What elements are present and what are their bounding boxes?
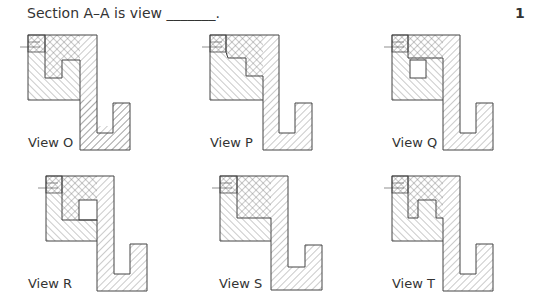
- view-label-o: View O: [28, 135, 73, 150]
- view-t[interactable]: View T: [392, 176, 502, 301]
- view-label-t: View T: [392, 276, 435, 291]
- view-label-q: View Q: [392, 135, 437, 150]
- view-p[interactable]: View P: [210, 35, 320, 155]
- view-label-s: View S: [219, 276, 262, 291]
- question-number: 1: [515, 5, 525, 21]
- view-label-p: View P: [210, 135, 253, 150]
- view-q[interactable]: View Q: [392, 35, 502, 155]
- view-o[interactable]: View O: [28, 35, 138, 155]
- view-r[interactable]: View R: [46, 176, 156, 301]
- question-text: Section A–A is view _______.: [27, 5, 220, 21]
- view-s[interactable]: View S: [220, 176, 330, 301]
- view-label-r: View R: [28, 276, 72, 291]
